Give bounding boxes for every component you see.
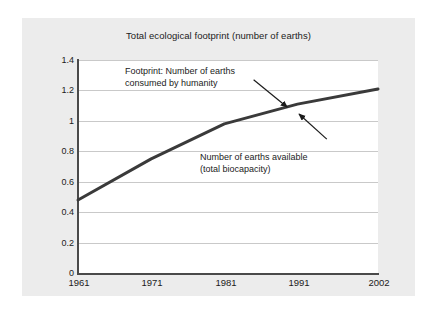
- y-tick-label-0.4: 0.4: [40, 207, 74, 217]
- y-axis-line: [77, 59, 79, 274]
- chart-title: Total ecological footprint (number of ea…: [22, 30, 415, 41]
- gridline-0.6: [78, 182, 378, 183]
- gridline-1.4: [78, 60, 378, 61]
- y-axis-tick-labels: 1.4 1.2 1 0.8 0.6 0.4 0.2 0: [36, 0, 74, 314]
- gridline-1.0: [78, 121, 378, 122]
- x-tick-label-1991: 1991: [276, 277, 322, 288]
- y-tick-label-1.4: 1.4: [40, 55, 74, 65]
- y-tick-label-0.2: 0.2: [40, 238, 74, 248]
- annotation-biocapacity-label: Number of earths available (total biocap…: [200, 152, 308, 175]
- annotation-footprint-label: Footprint: Number of earths consumed by …: [125, 66, 235, 89]
- chart-figure: Total ecological footprint (number of ea…: [0, 0, 436, 314]
- gridline-0.4: [78, 212, 378, 213]
- y-tick-label-0.6: 0.6: [40, 177, 74, 187]
- x-tick-label-1981: 1981: [203, 277, 249, 288]
- gridline-1.2: [78, 90, 378, 91]
- x-axis-line: [77, 273, 379, 275]
- y-tick-label-1.2: 1.2: [40, 85, 74, 95]
- y-tick-label-1: 1: [40, 116, 74, 126]
- x-tick-label-1971: 1971: [129, 277, 175, 288]
- gridline-0.2: [78, 243, 378, 244]
- y-tick-label-0.8: 0.8: [40, 146, 74, 156]
- x-tick-label-1961: 1961: [56, 277, 102, 288]
- x-tick-label-2002: 2002: [356, 277, 402, 288]
